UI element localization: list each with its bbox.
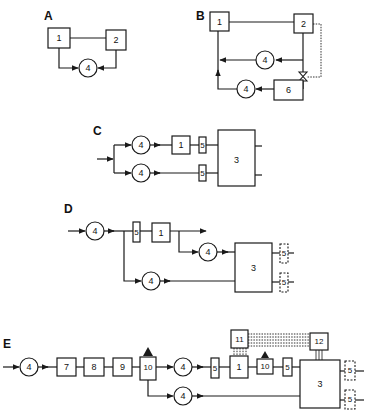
dashed-box-5-lower: 5	[280, 273, 288, 292]
svg-text:3: 3	[317, 379, 322, 389]
flow-arrow	[218, 70, 237, 89]
svg-text:1: 1	[217, 17, 222, 27]
svg-text:8: 8	[91, 362, 96, 372]
svg-text:4: 4	[180, 362, 185, 372]
panel-c: C 4 4 1 5 5	[93, 124, 262, 186]
circle-4-upper: 4	[132, 136, 150, 154]
svg-text:9: 9	[120, 362, 125, 372]
panel-label-b: B	[196, 9, 205, 23]
svg-text:1: 1	[236, 362, 241, 372]
flow-arrow	[59, 48, 78, 68]
dashed-box-5-lower: 5	[345, 390, 355, 409]
svg-text:3: 3	[251, 263, 256, 273]
svg-text:2: 2	[301, 19, 306, 29]
svg-text:2: 2	[113, 35, 118, 45]
svg-text:11: 11	[235, 335, 244, 344]
box-2: 2	[106, 30, 126, 50]
up-arrow-icon	[261, 351, 269, 358]
circle-4: 4	[79, 59, 97, 77]
svg-text:5: 5	[134, 228, 139, 237]
svg-text:5: 5	[282, 278, 287, 287]
box-5-first: 5	[211, 358, 219, 378]
box-5: 5	[133, 222, 140, 242]
box-5-lower: 5	[199, 165, 206, 181]
panel-b: B 1 2 4 4	[196, 9, 321, 100]
box-2: 2	[294, 14, 313, 33]
svg-text:4: 4	[138, 140, 143, 150]
box-10-second: 10	[257, 359, 273, 374]
circle-4-mid: 4	[199, 243, 217, 261]
panel-a: A 1 2 4	[44, 9, 126, 77]
svg-text:1: 1	[56, 33, 61, 43]
box-3: 3	[235, 243, 272, 292]
box-5-second: 5	[283, 358, 292, 376]
panel-label-e: E	[3, 337, 11, 351]
flow-arrow	[179, 231, 198, 252]
box-1: 1	[48, 28, 70, 48]
circle-4-input: 4	[86, 222, 104, 240]
svg-text:10: 10	[144, 363, 153, 372]
svg-text:4: 4	[148, 276, 153, 286]
circle-4-input: 4	[20, 358, 38, 376]
svg-text:5: 5	[200, 141, 205, 150]
svg-text:5: 5	[200, 169, 205, 178]
svg-text:3: 3	[234, 155, 239, 165]
svg-text:5: 5	[348, 366, 353, 375]
up-arrow-icon	[143, 347, 153, 356]
svg-text:5: 5	[282, 249, 287, 258]
circle-4-lower: 4	[142, 272, 160, 290]
flow-arrow	[148, 380, 173, 396]
circle-4-lower: 4	[237, 80, 255, 98]
flow-arrow	[98, 50, 116, 68]
panel-label-a: A	[44, 9, 53, 23]
svg-text:4: 4	[262, 55, 267, 65]
box-10-first: 10	[140, 357, 156, 380]
svg-text:4: 4	[180, 391, 185, 401]
panel-d: D 4 5 1 4 4	[64, 202, 294, 292]
box-1: 1	[210, 12, 229, 31]
box-5-upper: 5	[199, 137, 206, 153]
svg-text:6: 6	[286, 85, 291, 95]
svg-text:4: 4	[92, 226, 97, 236]
box-3: 3	[218, 130, 255, 186]
svg-text:1: 1	[178, 140, 183, 150]
dashed-box-5-upper: 5	[280, 244, 288, 263]
circle-4-lower: 4	[132, 164, 150, 182]
circle-4-mid: 4	[174, 358, 192, 376]
dashed-box-5-upper: 5	[345, 361, 355, 380]
circle-4-upper: 4	[256, 51, 274, 69]
svg-text:1: 1	[158, 228, 163, 238]
svg-text:7: 7	[64, 362, 69, 372]
link-12-3	[316, 350, 322, 360]
box-8: 8	[84, 358, 104, 376]
box-7: 7	[57, 358, 76, 376]
process-flow-diagram: A 1 2 4 B	[0, 0, 376, 419]
box-3: 3	[300, 360, 340, 408]
svg-text:10: 10	[261, 362, 270, 371]
panel-label-d: D	[64, 202, 73, 216]
svg-text:12: 12	[315, 337, 324, 346]
box-12: 12	[310, 333, 328, 350]
svg-text:5: 5	[213, 364, 218, 373]
box-1: 1	[172, 136, 190, 154]
svg-text:4: 4	[26, 362, 31, 372]
svg-text:5: 5	[348, 395, 353, 404]
box-9: 9	[113, 358, 132, 376]
svg-text:4: 4	[243, 84, 248, 94]
dotted-link-11-1	[234, 348, 246, 356]
panel-e: E	[3, 330, 364, 409]
box-11: 11	[231, 330, 248, 348]
svg-text:4: 4	[205, 247, 210, 257]
panel-label-c: C	[93, 124, 102, 138]
circle-4-lower: 4	[174, 387, 192, 405]
box-1: 1	[230, 356, 248, 378]
box-1: 1	[152, 223, 170, 242]
svg-text:5: 5	[285, 363, 290, 372]
box-6: 6	[274, 80, 303, 100]
svg-text:4: 4	[85, 63, 90, 73]
dotted-link-11-12	[248, 334, 310, 346]
svg-text:4: 4	[138, 168, 143, 178]
